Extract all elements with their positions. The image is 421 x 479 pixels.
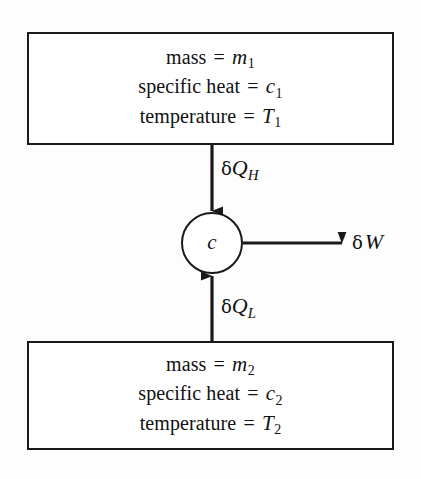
heat-in-high-subscript: H <box>248 167 259 183</box>
thermodynamics-diagram: mass = m1 specific heat = c1 temperature… <box>0 0 421 479</box>
delta-symbol-qh: δ <box>221 158 232 179</box>
engine-node: c <box>181 212 243 274</box>
heat-in-low-label: δQL <box>221 293 256 322</box>
heat-in-low-subscript: L <box>248 305 256 321</box>
work-out-variable: W <box>365 229 383 254</box>
engine-node-label: c <box>207 230 216 255</box>
delta-symbol-w: δ <box>352 232 363 253</box>
heat-in-low-variable: Q <box>232 293 248 318</box>
delta-symbol-ql: δ <box>221 296 232 317</box>
heat-in-high-label: δQH <box>221 155 259 184</box>
heat-in-high-variable: Q <box>232 155 248 180</box>
work-out-label: δW <box>352 229 383 255</box>
